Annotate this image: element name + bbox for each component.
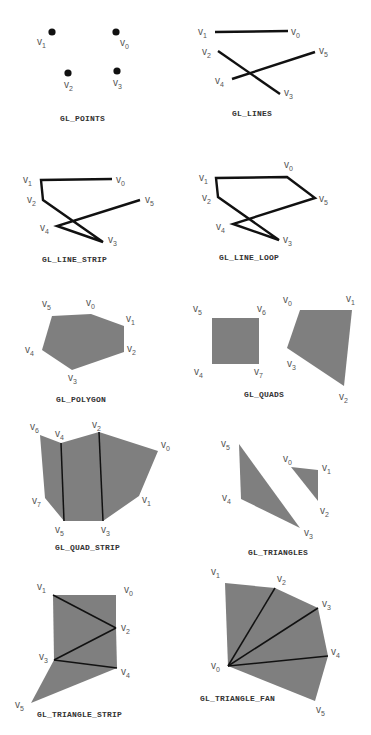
vertex-label: v0: [283, 294, 292, 307]
vertex-label: v5: [15, 699, 24, 712]
vertex-label: v6: [30, 421, 39, 434]
vertex-label: v0: [283, 453, 292, 466]
vertex-label: v2: [127, 343, 136, 356]
vertex-label: v5: [145, 194, 154, 207]
primitive-caption: GL_QUADS: [244, 390, 284, 399]
vertex-label: v3: [287, 358, 296, 371]
panel-line-loop: v0v1v2v3v4v5GL_LINE_LOOP: [199, 159, 328, 262]
primitive-caption: GL_TRIANGLES: [248, 548, 308, 557]
vertex-label: v0: [284, 159, 293, 172]
vertex-label: v1: [346, 293, 355, 306]
panel-triangles: v0v1v2v3v4v5GL_TRIANGLES: [221, 438, 331, 557]
vertex-label: v1: [126, 313, 135, 326]
primitive-caption: GL_LINE_LOOP: [219, 253, 279, 262]
vertex-label: v5: [319, 193, 328, 206]
vertex-label: v0: [291, 26, 300, 39]
point-v0: [112, 28, 119, 35]
vertex-label: v4: [216, 221, 225, 234]
quad-shape: [212, 318, 259, 364]
panel-triangle-strip: v0v1v2v3v4v5GL_TRIANGLE_STRIP: [15, 581, 133, 719]
vertex-label: v4: [40, 222, 49, 235]
vertex-label: v3: [322, 598, 331, 611]
point-v1: [48, 28, 55, 35]
panel-line-strip: v0v1v2v3v4v5GL_LINE_STRIP: [23, 174, 154, 264]
panel-lines: v0v1v2v3v4v5GL_LINES: [198, 26, 328, 118]
vertex-label: v0: [86, 297, 95, 310]
vertex-label: v7: [32, 495, 41, 508]
vertex-label: v0: [120, 37, 129, 50]
vertex-label: v2: [92, 419, 101, 432]
triangle-shape: [291, 467, 318, 501]
primitives-diagram: v0v1v2v3GL_POINTSv0v1v2v3v4v5GL_LINESv0v…: [0, 0, 371, 735]
panel-points: v0v1v2v3GL_POINTS: [37, 28, 129, 123]
vertex-label: v2: [320, 505, 329, 518]
vertex-label: v5: [42, 298, 51, 311]
vertex-label: v2: [339, 391, 348, 404]
vertex-label: v2: [202, 46, 211, 59]
vertex-label: v4: [55, 428, 64, 441]
vertex-label: v6: [257, 303, 266, 316]
line-segment: [215, 31, 288, 32]
vertex-label: v3: [101, 524, 110, 537]
vertex-label: v2: [27, 194, 36, 207]
point-v3: [113, 67, 120, 74]
vertex-label: v1: [37, 581, 46, 594]
vertex-label: v4: [194, 366, 203, 379]
triangle-shape: [239, 444, 300, 528]
primitive-caption: GL_QUAD_STRIP: [55, 543, 120, 552]
vertex-label: v1: [198, 26, 207, 39]
vertex-label: v0: [116, 174, 125, 187]
vertex-label: v1: [322, 462, 331, 475]
panel-polygon: v0v1v2v3v4v5GL_POLYGON: [25, 297, 136, 404]
panel-quads: v0v1v2v3v4v5v6v7GL_QUADS: [193, 293, 355, 404]
vertex-label: v3: [284, 87, 293, 100]
vertex-label: v3: [283, 234, 292, 247]
vertex-label: v1: [211, 566, 220, 579]
vertex-label: v5: [55, 524, 64, 537]
vertex-label: v2: [277, 573, 286, 586]
vertex-label: v1: [199, 172, 208, 185]
vertex-label: v3: [39, 651, 48, 664]
vertex-label: v3: [108, 234, 117, 247]
vertex-label: v3: [304, 527, 313, 540]
vertex-label: v1: [142, 494, 151, 507]
primitive-caption: GL_LINE_STRIP: [42, 255, 107, 264]
vertex-label: v3: [68, 372, 77, 385]
primitive-caption: GL_LINES: [232, 109, 272, 118]
vertex-label: v5: [193, 303, 202, 316]
line-strip-path: [41, 179, 140, 242]
vertex-label: v4: [331, 646, 340, 659]
primitive-caption: GL_POLYGON: [56, 395, 106, 404]
line-segment: [232, 52, 315, 79]
vertex-label: v3: [113, 77, 122, 90]
polygon-shape: [42, 314, 124, 370]
point-v2: [64, 69, 71, 76]
vertex-label: v1: [23, 174, 32, 187]
primitive-caption: GL_TRIANGLE_FAN: [200, 694, 275, 703]
panel-quad-strip: v0v1v2v3v4v5v6v7GL_QUAD_STRIP: [30, 419, 170, 552]
vertex-label: v2: [202, 192, 211, 205]
vertex-label: v4: [222, 492, 231, 505]
primitive-caption: GL_TRIANGLE_STRIP: [37, 710, 122, 719]
vertex-label: v7: [254, 366, 263, 379]
vertex-label: v0: [124, 584, 133, 597]
vertex-label: v1: [37, 36, 46, 49]
vertex-label: v0: [161, 439, 170, 452]
panel-triangle-fan: v0v1v2v3v4v5GL_TRIANGLE_FAN: [200, 566, 340, 717]
vertex-label: v2: [121, 622, 130, 635]
vertex-label: v5: [319, 45, 328, 58]
vertex-label: v0: [211, 660, 220, 673]
vertex-label: v5: [221, 438, 230, 451]
vertex-label: v5: [316, 704, 325, 717]
line-loop-path: [216, 177, 315, 240]
vertex-label: v4: [215, 75, 224, 88]
primitive-caption: GL_POINTS: [60, 114, 105, 123]
vertex-label: v2: [64, 79, 73, 92]
quad-shape: [287, 310, 352, 386]
vertex-label: v4: [25, 344, 34, 357]
vertex-label: v4: [121, 666, 130, 679]
